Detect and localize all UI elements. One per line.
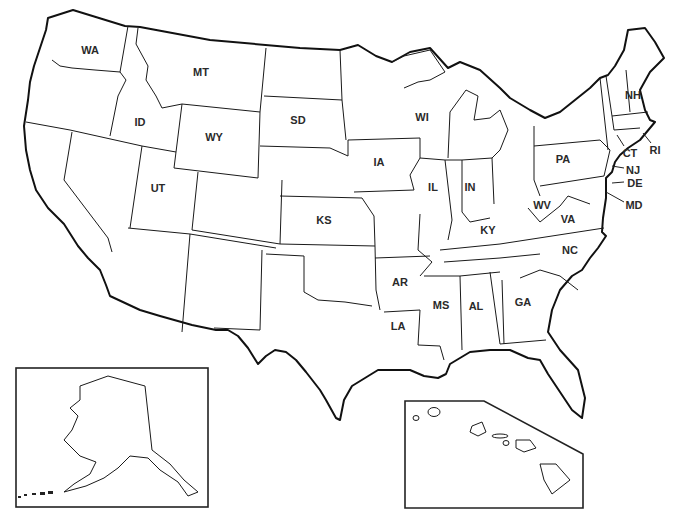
state-label-in[interactable]: IN (465, 181, 476, 193)
state-label-ia[interactable]: IA (374, 156, 385, 168)
state-label-nj[interactable]: NJ (626, 164, 640, 176)
hawaii-islands (413, 408, 570, 495)
state-label-wi[interactable]: WI (415, 111, 428, 123)
state-label-nh[interactable]: NH (625, 89, 641, 101)
state-label-id[interactable]: ID (135, 116, 146, 128)
state-label-ga[interactable]: GA (515, 296, 532, 308)
state-label-wv[interactable]: WV (533, 199, 551, 211)
state-borders (26, 26, 648, 360)
hawaii-inset-frame (405, 401, 583, 508)
state-label-la[interactable]: LA (391, 320, 406, 332)
state-label-ut[interactable]: UT (151, 182, 166, 194)
state-label-il[interactable]: IL (428, 181, 438, 193)
state-label-wa[interactable]: WA (81, 44, 99, 56)
state-label-ri[interactable]: RI (650, 144, 661, 156)
state-label-ct[interactable]: CT (623, 147, 638, 159)
alaska-shape (64, 376, 198, 496)
state-label-nc[interactable]: NC (562, 244, 578, 256)
state-label-va[interactable]: VA (561, 213, 575, 225)
state-label-de[interactable]: DE (627, 177, 642, 189)
state-label-sd[interactable]: SD (290, 114, 305, 126)
state-label-ky[interactable]: KY (480, 224, 495, 236)
state-label-wy[interactable]: WY (205, 131, 223, 143)
state-label-ms[interactable]: MS (433, 299, 450, 311)
state-label-pa[interactable]: PA (556, 153, 570, 165)
us-outline-map (0, 0, 686, 513)
state-label-ks[interactable]: KS (316, 214, 331, 226)
state-label-md[interactable]: MD (625, 199, 642, 211)
aleutian-islands (18, 491, 53, 498)
state-label-mt[interactable]: MT (193, 66, 209, 78)
state-label-ar[interactable]: AR (392, 276, 408, 288)
state-label-al[interactable]: AL (469, 300, 484, 312)
